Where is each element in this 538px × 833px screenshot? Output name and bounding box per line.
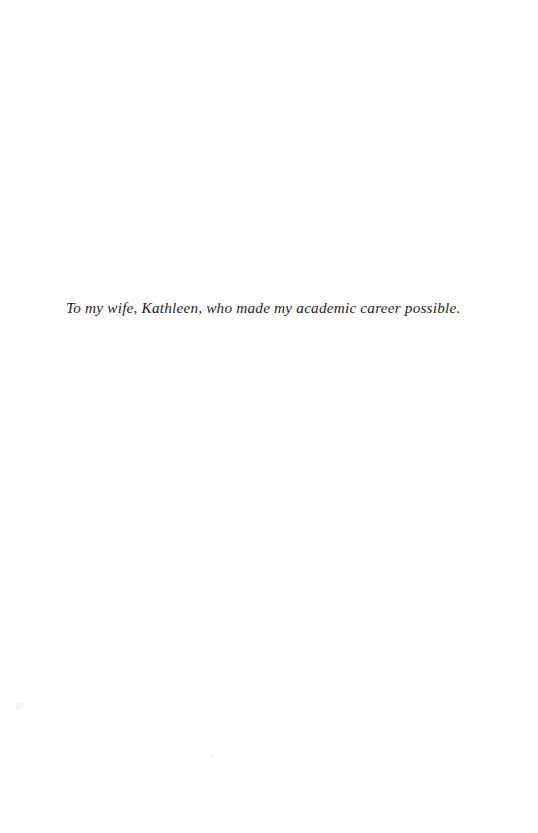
scan-speck-artifact-center [210,753,215,758]
dedication-block: To my wife, Kathleen, who made my academ… [66,283,466,334]
scan-speck-artifact-left [16,703,23,709]
page-canvas: To my wife, Kathleen, who made my academ… [0,0,538,833]
dedication-text: To my wife, Kathleen, who made my academ… [66,298,466,319]
